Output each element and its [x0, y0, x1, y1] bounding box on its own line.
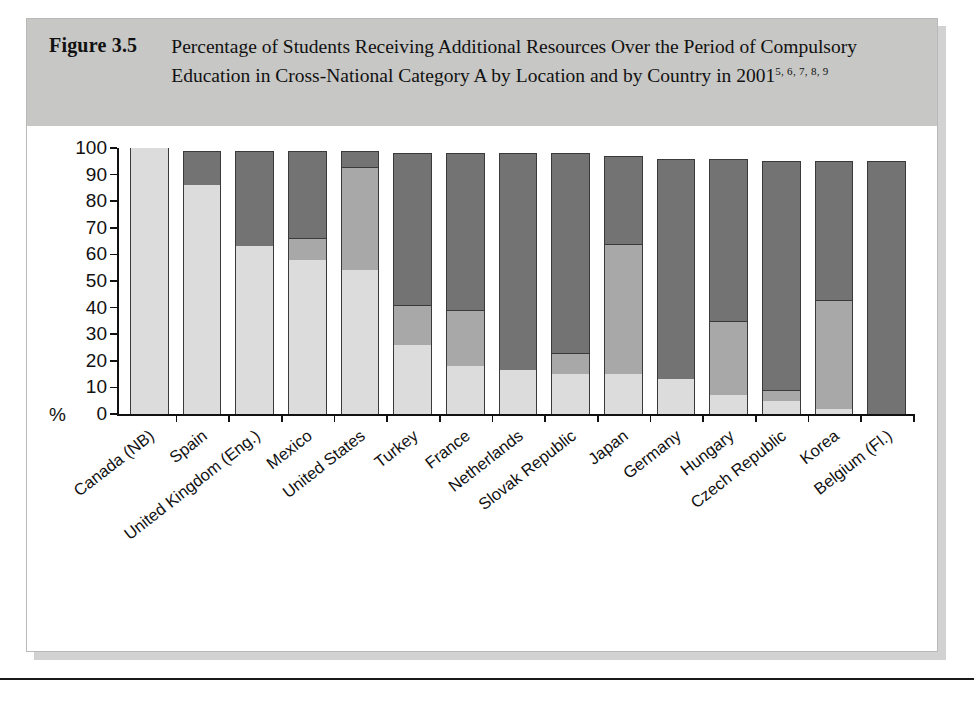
- bar-segment-special-schools: [605, 156, 642, 244]
- bar-segment-regular-classes: [658, 379, 695, 414]
- bar-segment-regular-classes: [289, 260, 326, 414]
- bar-segment-regular-classes: [816, 409, 853, 414]
- y-axis-tick: [110, 413, 117, 415]
- y-axis-tick-label: 30: [61, 323, 107, 345]
- y-axis-tick: [110, 227, 117, 229]
- x-axis-line: [117, 414, 915, 416]
- bar-canada-nb[interactable]: [130, 148, 169, 414]
- bar-segment-regular-classes: [236, 246, 273, 414]
- x-axis-tick: [650, 414, 652, 422]
- y-axis-tick-label: 50: [61, 270, 107, 292]
- bar-segment-special-classes: [763, 390, 800, 401]
- bar-segment-special-classes: [816, 300, 853, 409]
- bar-segment-special-classes: [447, 310, 484, 366]
- x-axis-tick: [334, 414, 336, 422]
- x-axis-tick: [544, 414, 546, 422]
- y-axis-tick-label: 100: [61, 137, 107, 159]
- bar-segment-special-schools: [552, 153, 589, 353]
- bar-segment-regular-classes: [394, 345, 431, 414]
- bar-united-states[interactable]: [341, 151, 380, 414]
- bar-segment-regular-classes: [500, 370, 537, 414]
- y-axis-tick: [110, 333, 117, 335]
- y-axis-tick-label: 80: [61, 190, 107, 212]
- x-axis-label-slovak-republic: Slovak Republic: [474, 426, 579, 514]
- bar-slovak-republic[interactable]: [551, 153, 590, 414]
- x-axis-tick: [228, 414, 230, 422]
- bar-segment-regular-classes: [184, 185, 221, 414]
- chart-plot-area: % 0102030405060708090100 Canada (NB)Spai…: [27, 126, 937, 651]
- figure-title-line-1: Percentage of Students Receiving Additio…: [171, 36, 678, 57]
- y-axis-tick: [110, 174, 117, 176]
- bar-segment-special-classes: [342, 167, 379, 271]
- y-axis-tick: [110, 307, 117, 309]
- bar-korea[interactable]: [815, 161, 854, 414]
- x-axis-tick: [597, 414, 599, 422]
- bar-turkey[interactable]: [393, 153, 432, 414]
- figure-title: Percentage of Students Receiving Additio…: [171, 33, 871, 90]
- bar-segment-special-schools: [184, 151, 221, 186]
- bar-segment-regular-classes: [131, 148, 168, 414]
- bar-germany[interactable]: [657, 159, 696, 414]
- y-axis-tick-label: 10: [61, 376, 107, 398]
- x-axis-tick: [281, 414, 283, 422]
- x-axis-label-spain: Spain: [166, 426, 211, 467]
- y-axis-tick-label: 90: [61, 164, 107, 186]
- bar-segment-special-schools: [710, 159, 747, 321]
- figure-page: Figure 3.5 Percentage of Students Receiv…: [0, 0, 974, 705]
- x-axis-tick: [755, 414, 757, 422]
- bar-france[interactable]: [446, 153, 485, 414]
- y-axis-tick: [110, 360, 117, 362]
- bar-japan[interactable]: [604, 156, 643, 414]
- bar-segment-special-classes: [605, 244, 642, 374]
- bar-netherlands[interactable]: [499, 153, 538, 414]
- page-bottom-rule: [0, 678, 974, 680]
- bar-czech-republic[interactable]: [762, 161, 801, 414]
- x-axis-label-turkey: Turkey: [370, 426, 421, 472]
- x-axis-label-canada-nb: Canada (NB): [70, 426, 158, 500]
- figure-title-footnote-markers: 5, 6, 7, 8, 9: [775, 64, 828, 76]
- x-axis-label-czech-republic: Czech Republic: [687, 426, 790, 512]
- x-axis-tick: [386, 414, 388, 422]
- y-axis-tick-label: 20: [61, 350, 107, 372]
- x-axis-label-korea: Korea: [796, 426, 842, 468]
- bar-segment-special-schools: [394, 153, 431, 305]
- x-axis-tick: [492, 414, 494, 422]
- bar-segment-special-schools: [868, 161, 905, 414]
- y-axis-line: [117, 148, 119, 416]
- bar-segment-special-schools: [236, 151, 273, 247]
- x-axis-tick: [860, 414, 862, 422]
- y-axis-tick-label: 40: [61, 297, 107, 319]
- bar-segment-special-schools: [289, 151, 326, 239]
- bar-segment-special-schools: [763, 161, 800, 390]
- bar-segment-special-schools: [816, 161, 853, 299]
- y-axis-tick-label: 70: [61, 217, 107, 239]
- x-axis-tick: [702, 414, 704, 422]
- bar-segment-regular-classes: [447, 366, 484, 414]
- bar-segment-special-classes: [394, 305, 431, 345]
- bar-segment-special-classes: [552, 353, 589, 374]
- x-axis-tick: [913, 414, 915, 422]
- bar-spain[interactable]: [183, 151, 222, 414]
- bar-segment-regular-classes: [605, 374, 642, 414]
- bar-segment-special-schools: [500, 153, 537, 370]
- figure-number: Figure 3.5: [49, 33, 137, 57]
- chart-canvas: % 0102030405060708090100 Canada (NB)Spai…: [27, 126, 937, 651]
- bar-segment-special-classes: [710, 321, 747, 395]
- bar-segment-regular-classes: [342, 270, 379, 414]
- bar-segment-special-schools: [658, 159, 695, 380]
- bar-belgium-fl[interactable]: [867, 161, 906, 414]
- bar-united-kingdom-eng[interactable]: [235, 151, 274, 414]
- figure-title-line-3: Location and by Country in 2001: [516, 65, 775, 86]
- y-axis-tick: [110, 200, 117, 202]
- bar-mexico[interactable]: [288, 151, 327, 414]
- y-axis-tick: [110, 387, 117, 389]
- bar-segment-regular-classes: [710, 395, 747, 414]
- x-axis-label-germany: Germany: [619, 426, 684, 483]
- bar-hungary[interactable]: [709, 159, 748, 414]
- bar-segment-special-classes: [289, 238, 326, 259]
- y-axis-tick: [110, 280, 117, 282]
- y-axis-tick: [110, 147, 117, 149]
- bar-segment-special-schools: [342, 151, 379, 167]
- x-axis-tick: [439, 414, 441, 422]
- bar-segment-regular-classes: [763, 401, 800, 414]
